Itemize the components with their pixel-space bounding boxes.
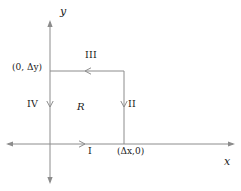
y-axis-bottom-arrowhead [47,177,52,184]
edge-label-IV: IV [27,99,38,109]
y-axis-top-arrowhead [47,20,52,27]
x-axis-label: x [224,156,230,167]
edge-label-I: I [88,146,92,156]
x-axis-right-arrowhead [228,141,235,146]
y-axis-label: y [60,6,66,17]
coordinate-diagram: y x (0, Δy) (Δx,0) R I II III IV [0,0,241,191]
edge-label-II: II [128,99,136,109]
region-label-R: R [77,102,85,112]
diagram-canvas [0,0,241,191]
x-axis-left-arrowhead [6,141,13,146]
vertex-label-top-left: (0, Δy) [12,63,42,72]
edge-label-III: III [85,50,97,60]
vertex-label-bottom-right: (Δx,0) [117,147,144,156]
